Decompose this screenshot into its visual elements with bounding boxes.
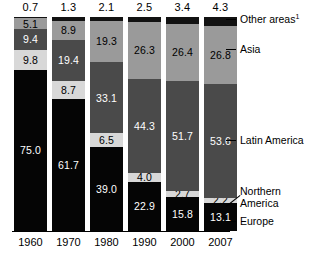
bar-total-2000: 3.4: [166, 1, 199, 13]
x-axis-labels: 196019701980199020002007: [0, 234, 250, 256]
legend-label-northern-america[interactable]: Northern America: [240, 186, 321, 209]
segment-value-label: 4.0: [137, 173, 152, 182]
leader-line-asia: [226, 49, 236, 50]
segment-other-areas-2000[interactable]: [166, 17, 199, 24]
segment-value-label: 19.4: [58, 55, 79, 66]
segment-northern-america-1990[interactable]: 4.0: [128, 173, 161, 182]
legend-footnote-marker: 1: [295, 13, 299, 20]
x-tick-label-1980: 1980: [87, 236, 126, 248]
totals-row: 0.71.32.12.53.44.3: [0, 0, 250, 18]
segment-europe-1970[interactable]: 61.7: [52, 99, 85, 231]
stacked-bar-1970[interactable]: 8.919.48.761.7: [52, 17, 85, 231]
segment-value-label: 6.5: [99, 135, 114, 146]
segment-northern-america-1970[interactable]: 8.7: [52, 81, 85, 100]
segment-value-label: 26.3: [134, 45, 155, 56]
stacked-bar-1960[interactable]: 5.19.49.875.0: [14, 17, 47, 231]
legend-label-text: Other areas: [240, 13, 295, 25]
segment-value-label: 5.1: [23, 19, 38, 30]
segment-value-label: 51.7: [172, 131, 193, 142]
segment-europe-2000[interactable]: 15.8: [166, 197, 199, 231]
plot-area: 5.19.49.875.08.919.48.761.719.333.16.539…: [0, 17, 250, 231]
segment-northern-america-1960[interactable]: 9.8: [14, 50, 47, 71]
segment-value-label: 44.3: [134, 121, 155, 132]
stacked-bar-1990[interactable]: 26.344.34.022.9: [128, 17, 161, 231]
leader-line-europe: [226, 221, 236, 222]
segment-value-label: 19.3: [96, 36, 117, 47]
legend-label-text: Latin America: [240, 134, 304, 146]
leader-line-latin-america: [226, 140, 236, 141]
segment-asia-1960[interactable]: 5.1: [14, 18, 47, 29]
segment-value-label: 9.4: [23, 34, 38, 45]
bar-total-1970: 1.3: [52, 1, 85, 13]
x-tick-label-1990: 1990: [125, 236, 164, 248]
x-tick-label-1960: 1960: [11, 236, 50, 248]
legend-label-text: Asia: [240, 43, 260, 55]
chart-root: 0.71.32.12.53.44.3 5.19.49.875.08.919.48…: [0, 0, 321, 259]
segment-value-label: 61.7: [58, 160, 79, 171]
segment-latin-america-1980[interactable]: 33.1: [90, 62, 123, 133]
bar-total-1990: 2.5: [128, 1, 161, 13]
segment-value-label: 33.1: [96, 93, 117, 104]
leader-line-northern-america: [226, 195, 241, 207]
segment-northern-america-1980[interactable]: 6.5: [90, 133, 123, 147]
legend-label-other-areas[interactable]: Other areas1: [240, 14, 321, 26]
segment-latin-america-1960[interactable]: 9.4: [14, 29, 47, 49]
legend-label-asia[interactable]: Asia: [240, 44, 321, 56]
bar-total-1980: 2.1: [90, 1, 123, 13]
bar-total-1960: 0.7: [14, 1, 47, 13]
x-tick-label-2000: 2000: [163, 236, 202, 248]
segment-value-label: 8.7: [61, 85, 76, 96]
segment-latin-america-1970[interactable]: 19.4: [52, 40, 85, 81]
segment-value-label: 8.9: [61, 25, 76, 36]
legend-label-europe[interactable]: Europe: [240, 216, 321, 228]
x-tick-label-1970: 1970: [49, 236, 88, 248]
leader-line-other-areas: [226, 19, 236, 20]
stacked-bar-2000[interactable]: 26.451.72.715.8: [166, 17, 199, 231]
segment-europe-1980[interactable]: 39.0: [90, 147, 123, 231]
segment-value-label: 9.8: [23, 55, 38, 66]
segment-value-label: 39.0: [96, 184, 117, 195]
segment-value-label: 22.9: [134, 201, 155, 212]
stacked-bar-1980[interactable]: 19.333.16.539.0: [90, 17, 123, 231]
legend-label-text: Northern America: [240, 185, 281, 209]
segment-value-label: 75.0: [20, 145, 41, 156]
segment-value-label: 26.4: [172, 47, 193, 58]
segment-latin-america-1990[interactable]: 44.3: [128, 79, 161, 174]
segment-asia-1980[interactable]: 19.3: [90, 21, 123, 62]
segment-asia-1990[interactable]: 26.3: [128, 22, 161, 78]
segment-latin-america-2000[interactable]: 51.7: [166, 81, 199, 192]
legend: Other areas1AsiaLatin AmericaNorthern Am…: [228, 0, 321, 259]
segment-asia-1970[interactable]: 8.9: [52, 21, 85, 40]
segment-value-label: 15.8: [172, 209, 193, 220]
segment-europe-1960[interactable]: 75.0: [14, 70, 47, 231]
legend-label-text: Europe: [240, 215, 274, 227]
segment-europe-1990[interactable]: 22.9: [128, 182, 161, 231]
segment-asia-2000[interactable]: 26.4: [166, 24, 199, 80]
x-axis-line: [12, 231, 230, 232]
legend-label-latin-america[interactable]: Latin America: [240, 135, 321, 147]
